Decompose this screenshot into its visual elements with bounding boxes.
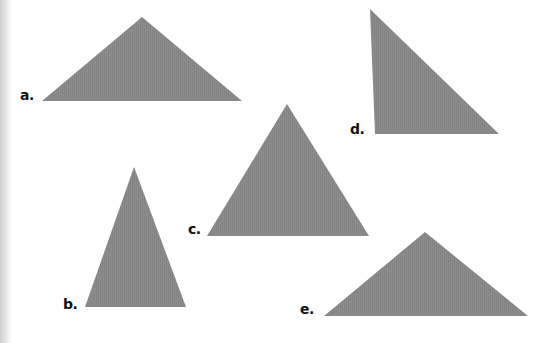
label-e: e.: [300, 302, 314, 316]
triangles-figure: a. b. c. d. e.: [0, 0, 542, 343]
label-a: a.: [20, 88, 34, 102]
triangle-b: [85, 167, 186, 307]
triangles-svg: [0, 0, 542, 343]
triangle-a: [42, 17, 242, 101]
triangle-d: [370, 9, 499, 134]
triangle-e: [324, 232, 528, 316]
label-b: b.: [63, 297, 77, 311]
triangle-c: [207, 104, 369, 236]
label-d: d.: [350, 122, 364, 136]
label-c: c.: [188, 222, 201, 236]
